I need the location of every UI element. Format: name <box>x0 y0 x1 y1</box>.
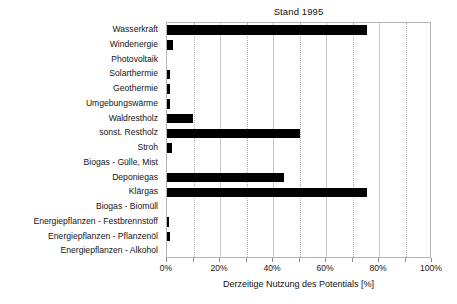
bar-row <box>167 53 430 68</box>
plot-area <box>166 22 431 258</box>
bar-row <box>167 171 430 186</box>
bar-chart: Stand 1995 WasserkraftWindenergiePhotovo… <box>0 0 457 304</box>
chart-title: Stand 1995 <box>166 6 431 17</box>
bar <box>167 99 170 109</box>
axis-tick <box>272 258 273 262</box>
x-tick-label: 100% <box>420 263 442 274</box>
bar-row <box>167 230 430 245</box>
bar-row <box>167 23 430 38</box>
bar <box>167 173 284 183</box>
x-tick-label: 0% <box>160 263 172 274</box>
axis-tick <box>352 258 353 262</box>
category-label: Deponiegas <box>0 170 162 185</box>
bar <box>167 114 193 124</box>
axis-tick <box>166 258 167 262</box>
category-label: Klärgas <box>0 184 162 199</box>
bar <box>167 232 170 242</box>
x-axis-tick-labels: 0%20%40%60%80%100% <box>0 263 457 277</box>
category-label: Wasserkraft <box>0 22 162 37</box>
bar-row <box>167 141 430 156</box>
category-label: Waldrestholz <box>0 111 162 126</box>
x-axis-title: Derzeitige Nutzung des Potentials [%] <box>166 278 431 290</box>
axis-tick <box>193 258 194 262</box>
category-label: Biogas - Biomüll <box>0 199 162 214</box>
category-label: Energiepflanzen - Pflanzenöl <box>0 229 162 244</box>
bar-row <box>167 38 430 53</box>
bar <box>167 84 170 94</box>
category-label: Solarthermie <box>0 66 162 81</box>
bar-row <box>167 112 430 127</box>
category-label: Biogas - Gülle, Mist <box>0 155 162 170</box>
axis-tick <box>431 258 432 262</box>
bar <box>167 217 169 227</box>
bar-row <box>167 244 430 259</box>
category-label: Energiepflanzen - Festbrennstoff <box>0 214 162 229</box>
category-label: sonst. Restholz <box>0 125 162 140</box>
bar <box>167 188 367 198</box>
axis-tick <box>378 258 379 262</box>
bar-series <box>167 23 430 257</box>
bar-row <box>167 200 430 215</box>
bar <box>167 143 172 153</box>
bar-row <box>167 215 430 230</box>
bar-row <box>167 67 430 82</box>
x-tick-label: 60% <box>316 263 333 274</box>
bar <box>167 25 367 35</box>
category-axis-labels: WasserkraftWindenergiePhotovoltaikSolart… <box>0 22 162 258</box>
axis-tick <box>219 258 220 262</box>
axis-tick <box>325 258 326 262</box>
x-tick-label: 40% <box>263 263 280 274</box>
x-tick-label: 20% <box>210 263 227 274</box>
bar-row <box>167 97 430 112</box>
category-label: Geothermie <box>0 81 162 96</box>
bar <box>167 129 300 139</box>
axis-tick <box>246 258 247 262</box>
axis-tick <box>299 258 300 262</box>
bar-row <box>167 82 430 97</box>
bar-row <box>167 126 430 141</box>
x-tick-label: 80% <box>369 263 386 274</box>
bar <box>167 40 173 50</box>
category-label: Umgebungswärme <box>0 96 162 111</box>
axis-tick <box>405 258 406 262</box>
bar-row <box>167 185 430 200</box>
category-label: Photovoltaik <box>0 52 162 67</box>
category-label: Energiepflanzen - Alkohol <box>0 243 162 258</box>
category-label: Windenergie <box>0 37 162 52</box>
bar-row <box>167 156 430 171</box>
bar <box>167 70 170 80</box>
category-label: Stroh <box>0 140 162 155</box>
